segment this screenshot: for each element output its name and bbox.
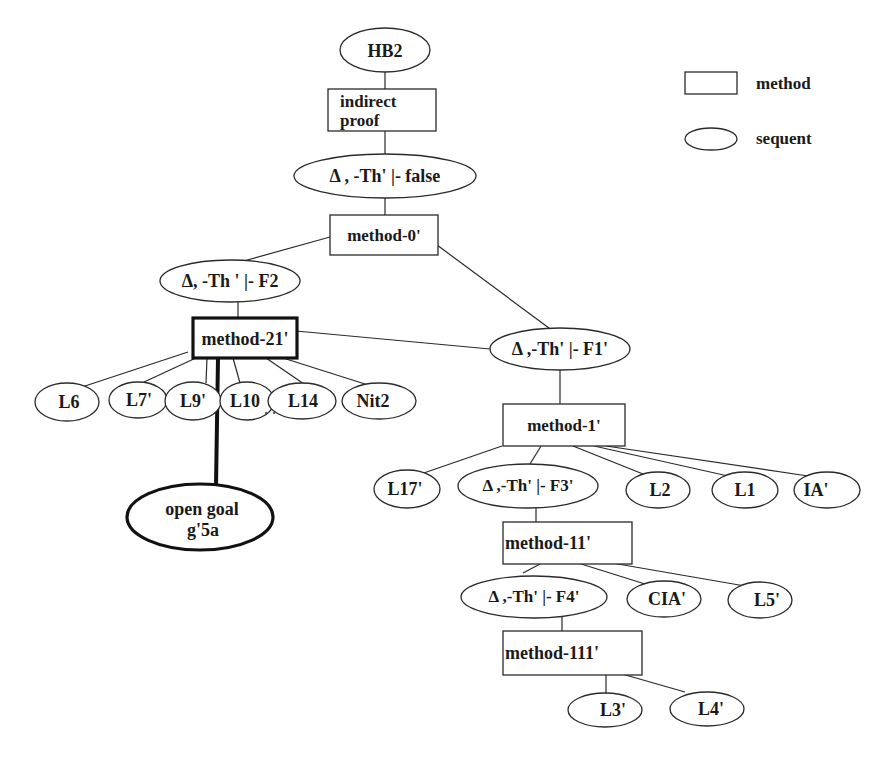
node-indirect-proof-label-2: proof (340, 111, 380, 130)
node-seq-f2: Δ, -Th ' |- F2 (160, 260, 300, 302)
node-hb2-label: HB2 (367, 41, 402, 61)
node-indirect-proof-label-1: indirect (340, 92, 397, 111)
node-method-11: method-11' (503, 522, 632, 564)
node-l17: L17' (374, 470, 440, 508)
node-l5: L5' (728, 582, 792, 618)
node-l2-label: L2 (649, 480, 670, 500)
node-cia: CIA' (627, 581, 701, 617)
legend-sequent-label: sequent (756, 129, 812, 148)
node-method-111-label: method-111' (505, 643, 599, 663)
node-l1-label: L1 (734, 480, 755, 500)
legend: method sequent (685, 72, 812, 150)
node-l4: L4' (670, 692, 744, 726)
node-seq-f4: Δ ,-Th' |- F4' (461, 576, 607, 618)
legend-method-label: method (756, 74, 811, 93)
node-l7: L7' (109, 382, 167, 418)
node-nit2-label: Nit2 (357, 391, 390, 411)
legend-method-swatch (685, 72, 737, 94)
node-l6: L6 (35, 383, 99, 421)
node-method-1: method-1' (503, 404, 625, 446)
node-l7-label: L7' (126, 390, 152, 410)
node-seq-f3-label: Δ ,-Th' |- F3' (483, 476, 574, 495)
node-l9-label: L9' (180, 391, 206, 411)
node-method-11-label: method-11' (505, 533, 591, 553)
node-l14: L14 (268, 383, 336, 419)
node-l17-label: L17' (387, 479, 422, 499)
node-l9: L9' (165, 382, 221, 420)
node-ia-label: IA' (803, 480, 828, 500)
edge-method0-f2 (240, 237, 330, 262)
edge-method11-cia (578, 563, 645, 584)
node-method-111: method-111' (503, 631, 642, 675)
edge-method21-l7 (144, 357, 198, 382)
node-l2: L2 (626, 472, 690, 508)
node-l14-label: L14 (288, 391, 318, 411)
node-method-21: method-21' (193, 318, 297, 358)
node-method-0-label: method-0' (347, 226, 421, 245)
edge-method111-l4 (622, 674, 685, 692)
proof-plan-diagram: method sequent HB2 indirect proof Δ , -T… (0, 0, 887, 757)
node-method-0: method-0' (330, 215, 438, 255)
node-seq-f3: Δ ,-Th' |- F3' (458, 464, 598, 508)
edge-method21-l10 (233, 358, 240, 383)
node-l6-label: L6 (58, 392, 79, 412)
node-seq-f1: Δ ,-Th' |- F1' (490, 328, 630, 370)
edge-method21-l14 (266, 358, 304, 384)
node-ia: IA' (794, 472, 860, 508)
node-seq-f4-label: Δ ,-Th' |- F4' (489, 587, 580, 606)
node-hb2: HB2 (340, 28, 430, 72)
node-seq-false-label: Δ , -Th' |- false (330, 166, 441, 186)
edge-method21-nit2 (283, 358, 365, 384)
edge-method21-l9 (206, 358, 207, 383)
node-l4-label: L4' (698, 699, 724, 719)
node-method-1-label: method-1' (527, 416, 601, 435)
node-l3-label: L3' (600, 700, 626, 720)
node-nit2: Nit2 (342, 383, 416, 419)
node-seq-f2-label: Δ, -Th ' |- F2 (182, 271, 279, 291)
node-l10-label: L10 (230, 391, 260, 411)
node-cia-label: CIA' (648, 589, 686, 609)
node-l1: L1 (712, 472, 778, 508)
node-open-goal: open goal g'5a (127, 484, 273, 550)
node-seq-false: Δ , -Th' |- false (294, 154, 476, 198)
edge-method21-open-goal (216, 358, 218, 486)
node-open-goal-label-1: open goal (165, 499, 239, 519)
node-indirect-proof: indirect proof (328, 89, 436, 131)
edge-method0-f1 (437, 245, 553, 331)
node-l3: L3' (568, 693, 642, 727)
edge-method21-f1 (296, 331, 490, 349)
node-seq-f1-label: Δ ,-Th' |- F1' (512, 339, 608, 359)
node-l5-label: L5' (754, 590, 780, 610)
node-method-21-label: method-21' (202, 329, 289, 349)
node-open-goal-label-2: g'5a (187, 520, 219, 540)
legend-sequent-swatch (685, 128, 737, 150)
edge-method1-f3 (530, 446, 541, 464)
